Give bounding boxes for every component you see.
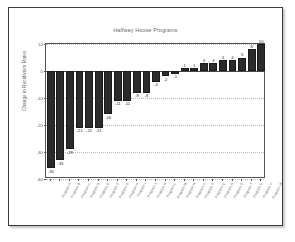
bar-value-label: -4 — [154, 82, 158, 87]
bar-slot[interactable]: -29 — [65, 44, 75, 177]
bar[interactable] — [143, 71, 151, 93]
x-tick-mark — [232, 179, 233, 181]
x-tick-mark — [203, 179, 204, 181]
bar-slot[interactable]: -11 — [123, 44, 133, 177]
bar-value-label: 1 — [184, 63, 186, 68]
chart-title: Halfway House Programs — [9, 27, 282, 33]
bar[interactable] — [162, 71, 170, 76]
bar-slot[interactable]: 4 — [228, 44, 238, 177]
bar-value-label: 4 — [231, 55, 233, 60]
bar-value-label: 3 — [212, 58, 214, 63]
x-tick-mark — [145, 179, 146, 181]
y-tick-label: 10 — [38, 42, 43, 47]
x-tick-mark — [50, 179, 51, 181]
bar-slot[interactable]: -16 — [103, 44, 113, 177]
x-tick-mark — [222, 179, 223, 181]
bar[interactable] — [229, 60, 237, 71]
x-tick-mark — [88, 179, 89, 181]
bar-value-label: -2 — [164, 77, 168, 82]
bar[interactable] — [190, 68, 198, 71]
x-tick-mark — [126, 179, 127, 181]
bar[interactable] — [76, 71, 84, 128]
bar-slot[interactable]: -8 — [142, 44, 152, 177]
bar-value-label: 3 — [203, 58, 205, 63]
bar-value-label: 10 — [259, 39, 264, 44]
bar[interactable] — [133, 71, 141, 93]
x-tick-label: Program W — [272, 182, 284, 200]
bar-slot[interactable]: -36 — [46, 44, 56, 177]
bar[interactable] — [104, 71, 112, 114]
bar-value-label: -36 — [48, 169, 54, 174]
y-tick-label: -40 — [37, 177, 43, 182]
bar-slot[interactable]: -33 — [56, 44, 66, 177]
bar[interactable] — [219, 60, 227, 71]
x-tick-mark — [107, 179, 108, 181]
bar-slot[interactable]: 1 — [180, 44, 190, 177]
bar-slot[interactable]: 4 — [218, 44, 228, 177]
x-axis: Program AProgram BProgram CProgram DProg… — [45, 179, 265, 225]
bars-layer: -36-33-29-21-21-21-16-11-11-8-8-4-2-1113… — [46, 44, 264, 177]
bar[interactable] — [152, 71, 160, 82]
bar-value-label: 4 — [222, 55, 224, 60]
bar-value-label: -33 — [57, 161, 63, 166]
bar-slot[interactable]: 1 — [189, 44, 199, 177]
bar-value-label: 5 — [241, 52, 243, 57]
bar-value-label: 8 — [250, 44, 252, 49]
bar-value-label: -8 — [135, 93, 139, 98]
bar[interactable] — [85, 71, 93, 128]
x-tick-mark — [174, 179, 175, 181]
bar-slot[interactable]: 8 — [247, 44, 257, 177]
x-tick-mark — [165, 179, 166, 181]
x-tick-mark — [241, 179, 242, 181]
bar[interactable] — [66, 71, 74, 149]
x-tick-mark — [98, 179, 99, 181]
x-tick-mark — [212, 179, 213, 181]
bar-value-label: -16 — [105, 115, 111, 120]
bar-slot[interactable]: -4 — [151, 44, 161, 177]
bar-slot[interactable]: -21 — [75, 44, 85, 177]
bar[interactable] — [47, 71, 55, 168]
bar-value-label: -29 — [67, 150, 73, 155]
x-tick-mark — [193, 179, 194, 181]
x-tick-mark — [69, 179, 70, 181]
bar-slot[interactable]: -11 — [113, 44, 123, 177]
x-tick-mark — [78, 179, 79, 181]
x-tick-label: Program L — [166, 182, 177, 198]
y-tick-label: -20 — [37, 123, 43, 128]
bar-value-label: -21 — [76, 128, 82, 133]
plot-area: 100-10-20-30-40 -36-33-29-21-21-21-16-11… — [45, 43, 265, 178]
bar-value-label: -8 — [145, 93, 149, 98]
bar-slot[interactable]: 3 — [209, 44, 219, 177]
bar-value-label: -1 — [173, 74, 177, 79]
bar[interactable] — [238, 58, 246, 72]
bar-slot[interactable]: -2 — [161, 44, 171, 177]
bar[interactable] — [123, 71, 131, 101]
bar[interactable] — [114, 71, 122, 101]
bar[interactable] — [248, 49, 256, 71]
y-tick-label: -30 — [37, 150, 43, 155]
bar[interactable] — [209, 63, 217, 71]
bar-value-label: -21 — [86, 128, 92, 133]
bar-slot[interactable]: 5 — [237, 44, 247, 177]
figure-frame: Halfway House Programs Change in Recidiv… — [8, 7, 283, 226]
bar-value-label: -21 — [96, 128, 102, 133]
bar-slot[interactable]: 10 — [256, 44, 266, 177]
x-tick-mark — [155, 179, 156, 181]
x-tick-mark — [59, 179, 60, 181]
bar[interactable] — [56, 71, 64, 160]
y-axis-title: Change in Recidivism Rates — [22, 51, 27, 111]
bar-slot[interactable]: 3 — [199, 44, 209, 177]
bar[interactable] — [257, 44, 265, 71]
bar-slot[interactable]: -21 — [94, 44, 104, 177]
bar-value-label: 1 — [193, 63, 195, 68]
bar[interactable] — [181, 68, 189, 71]
x-tick-mark — [117, 179, 118, 181]
x-tick-mark — [251, 179, 252, 181]
bar-slot[interactable]: -8 — [132, 44, 142, 177]
bar-slot[interactable]: -1 — [170, 44, 180, 177]
bar[interactable] — [200, 63, 208, 71]
x-tick-mark — [260, 179, 261, 181]
bar[interactable] — [95, 71, 103, 128]
x-tick-mark — [136, 179, 137, 181]
bar-slot[interactable]: -21 — [84, 44, 94, 177]
